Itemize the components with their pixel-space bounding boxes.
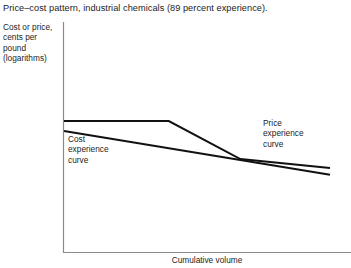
price-annotation-line-1: Price: [263, 118, 304, 128]
cost-annotation-line-3: curve: [68, 155, 109, 165]
cost-annotation-line-1: Cost: [68, 134, 109, 144]
price-annotation-line-3: curve: [263, 139, 304, 149]
price-annotation-line-2: experience: [263, 128, 304, 138]
chart-figure: Price–cost pattern, industrial chemicals…: [0, 0, 351, 268]
cost-experience-curve-annotation: Cost experience curve: [68, 134, 109, 165]
price-experience-curve-annotation: Price experience curve: [263, 118, 304, 149]
cost-annotation-line-2: experience: [68, 144, 109, 154]
x-axis-label: Cumulative volume: [63, 255, 351, 266]
